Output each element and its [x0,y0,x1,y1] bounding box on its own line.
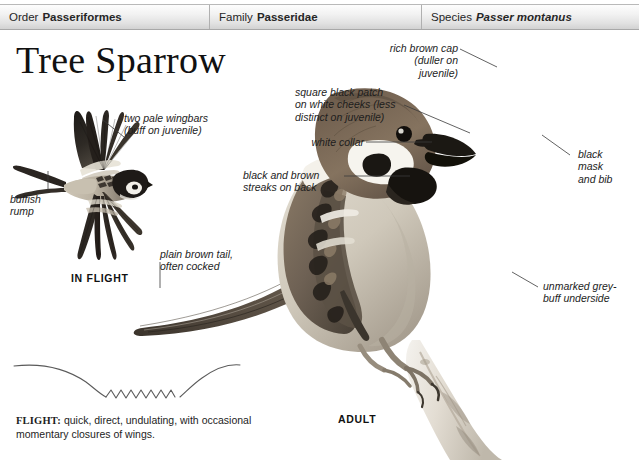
annotation-tail: plain brown tail, often cocked [160,248,233,273]
family-label: Family [219,11,253,23]
annotation-cheek-patch: square black patch on white cheeks (less… [295,86,395,123]
species-label: Species [431,11,472,23]
annotation-underside: unmarked grey- buff underside [543,280,617,305]
flight-path-diagram [12,358,242,403]
annotation-cap: rich brown cap (duller on juvenile) [300,42,458,79]
taxonomy-cell-family: Family Passeridae [209,5,421,29]
leader-mask-bib [542,135,570,155]
annotation-collar: white collar [250,136,364,148]
black-cheek-patch [363,154,392,177]
order-label: Order [9,11,38,23]
taxonomy-header-bar: Order Passeriformes Family Passeridae Sp… [0,4,639,30]
caption-in-flight: IN FLIGHT [71,272,129,284]
flight-note-label: FLIGHT: [16,415,61,426]
annotation-buffish-rump: buffish rump [10,193,41,218]
perch-branch [406,340,502,460]
caption-adult: ADULT [338,413,376,425]
taxonomy-cell-species: Species Passer montanus [421,5,639,29]
flight-note: FLIGHT: quick, direct, undulating, with … [16,414,276,441]
annotation-mask-bib: black mask and bib [578,148,612,185]
taxonomy-cell-order: Order Passeriformes [0,5,209,29]
order-value: Passeriformes [42,11,121,23]
family-value: Passeridae [257,11,318,23]
annotation-wingbars: two pale wingbars (buff on juvenile) [124,112,208,137]
annotation-back-streaks: black and brown streaks on back [243,169,319,194]
species-value: Passer montanus [476,11,572,23]
